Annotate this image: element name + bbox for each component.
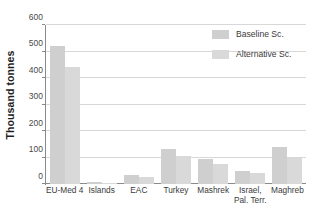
x-axis-tick-label-line1: Islands	[89, 185, 115, 195]
legend-swatch-icon	[212, 30, 229, 39]
y-axis-tick-label: 500	[1, 39, 43, 48]
bar	[287, 158, 302, 185]
legend-item: Alternative Sc.	[212, 46, 310, 62]
bar	[198, 159, 213, 184]
y-axis-tick-label: 600	[1, 12, 43, 21]
bar	[176, 156, 191, 184]
gridline	[46, 104, 306, 105]
gridline	[46, 24, 306, 25]
x-axis-tick-label-line1: EU-Med 4	[46, 185, 83, 195]
bar	[65, 67, 80, 184]
x-axis-tick-label-line1: Turkey	[163, 185, 188, 195]
bar	[102, 183, 117, 184]
bar	[272, 147, 287, 184]
bar	[50, 46, 65, 184]
x-axis-tick-label: Israel,Pal. Terr.	[232, 186, 269, 205]
x-axis-tick-label: EAC	[120, 186, 157, 196]
y-axis-tick-label: 200	[1, 118, 43, 127]
y-axis-tick-label: 0	[1, 171, 43, 180]
y-axis-tick-labels: 0100200300400500600	[0, 25, 43, 184]
x-axis-tick-label: Islands	[83, 186, 120, 196]
legend-item-label: Alternative Sc.	[236, 49, 291, 59]
x-axis-tick-label-line1: EAC	[130, 185, 147, 195]
x-axis-tick-label-line1: Mashrek	[197, 185, 229, 195]
x-axis-tick-label: Mashrek	[195, 186, 232, 196]
y-axis-tick-label: 100	[1, 145, 43, 154]
bar	[124, 175, 139, 184]
x-axis-tick-label: EU-Med 4	[46, 186, 83, 196]
x-axis-tick-label-line2: Pal. Terr.	[232, 196, 269, 206]
y-axis-tick-label: 400	[1, 65, 43, 74]
legend-swatch-icon	[212, 50, 229, 59]
bar	[87, 182, 102, 184]
bar	[139, 177, 154, 184]
bar	[161, 149, 176, 184]
y-axis-tick-label: 300	[1, 92, 43, 101]
x-axis-tick-label-line1: Israel,	[239, 185, 262, 195]
gridline	[46, 130, 306, 131]
chart-legend: Baseline Sc.Alternative Sc.	[212, 26, 310, 66]
bar	[250, 173, 265, 184]
bar	[213, 164, 228, 184]
x-axis-tick-label: Maghreb	[269, 186, 306, 196]
x-axis-tick-labels: EU-Med 4IslandsEACTurkeyMashrekIsrael,Pa…	[46, 186, 306, 216]
x-axis-tick-label: Turkey	[157, 186, 194, 196]
bar-chart: Thousand tonnes 0100200300400500600 EU-M…	[0, 0, 314, 218]
legend-item: Baseline Sc.	[212, 26, 310, 42]
legend-item-label: Baseline Sc.	[236, 29, 284, 39]
bar	[235, 171, 250, 184]
x-axis-tick-label-line1: Maghreb	[271, 185, 304, 195]
gridline	[46, 77, 306, 78]
